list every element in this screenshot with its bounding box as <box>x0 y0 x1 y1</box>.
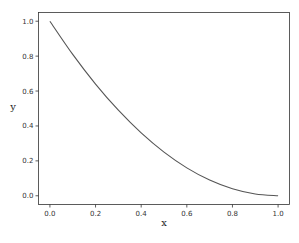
line-chart: 0.00.20.40.60.81.0 0.00.20.40.60.81.0 x … <box>0 0 299 243</box>
y-tick-label: 0.6 <box>22 88 34 96</box>
x-tick-label: 1.0 <box>273 210 284 218</box>
y-tick-label: 0.2 <box>22 157 33 165</box>
x-tick-label: 0.0 <box>44 210 55 218</box>
x-axis-label: x <box>161 217 167 228</box>
y-axis-ticks: 0.00.20.40.60.81.0 <box>22 18 38 201</box>
y-tick-label: 0.8 <box>22 53 33 61</box>
x-axis-ticks: 0.00.20.40.60.81.0 <box>44 205 283 218</box>
x-tick-label: 0.2 <box>90 210 101 218</box>
plot-area <box>50 21 278 196</box>
x-tick-label: 0.8 <box>227 210 238 218</box>
series-line-0 <box>50 21 278 196</box>
x-tick-label: 0.4 <box>136 210 148 218</box>
y-axis-label: y <box>9 101 16 112</box>
y-tick-label: 0.0 <box>22 192 33 200</box>
x-tick-label: 0.6 <box>181 210 193 218</box>
y-tick-label: 1.0 <box>22 18 33 26</box>
y-tick-label: 0.4 <box>22 122 34 130</box>
axes-frame <box>39 13 290 205</box>
